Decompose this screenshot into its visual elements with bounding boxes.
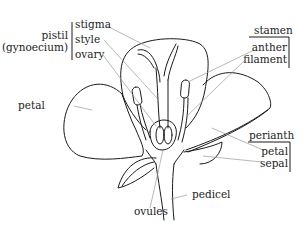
label-perianth-petal: petal — [261, 145, 288, 157]
label-style: style — [75, 33, 100, 45]
label-ovary: ovary — [75, 48, 104, 60]
corolla-left-inner — [123, 96, 146, 130]
receptacle — [146, 150, 156, 164]
left-petal — [64, 84, 144, 159]
label-stamen: stamen — [254, 24, 293, 36]
label-stigma: stigma — [75, 18, 111, 30]
label-pedicel: pedicel — [192, 188, 230, 200]
leader-stigma — [107, 26, 150, 48]
label-petal-left: petal — [18, 99, 45, 111]
left-anther — [131, 86, 142, 105]
label-perianth: perianth — [249, 129, 294, 141]
label-anther: anther — [252, 41, 287, 53]
receptacle-right — [174, 150, 184, 164]
label-perianth-sepal: sepal — [260, 157, 288, 169]
back-petal-outline — [121, 39, 208, 128]
leader-pedicel — [171, 195, 187, 199]
label-gynoecium: (gynoecium) — [2, 41, 68, 53]
ovule-left — [156, 126, 164, 144]
leader-petal-left — [74, 106, 92, 110]
flower-diagram: pistil (gynoecium) stigma style ovary pe… — [0, 0, 306, 237]
right-anther — [180, 80, 190, 99]
label-ovules: ovules — [134, 205, 168, 217]
pedicel-right — [173, 164, 175, 220]
label-filament: filament — [243, 53, 287, 65]
leader-style — [104, 40, 157, 98]
left-filament — [140, 104, 150, 138]
stigma-right-arm-inner — [168, 46, 178, 80]
ovule-right — [164, 126, 172, 144]
right-filament — [178, 98, 184, 140]
left-sepal-inner — [122, 162, 154, 186]
right-filament-inner — [182, 98, 188, 142]
label-pistil: pistil — [42, 29, 68, 41]
